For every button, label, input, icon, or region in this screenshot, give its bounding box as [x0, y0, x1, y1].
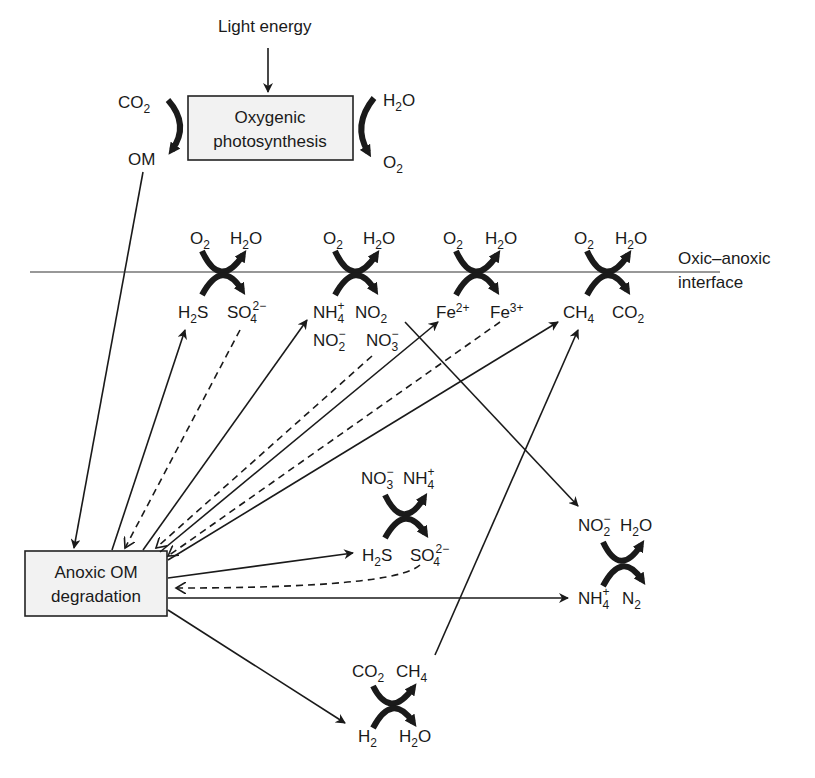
arrow-to-anoxic-h2s — [168, 553, 353, 578]
arrow-from-anoxic-so4 — [176, 565, 420, 588]
svg-text:NO−2: NO−2 — [578, 512, 611, 539]
anoxic-om-degradation-box — [25, 551, 167, 616]
arrow-to-h2 — [168, 610, 345, 723]
svg-text:Fe2+: Fe2+ — [436, 301, 470, 322]
svg-text:CH4: CH4 — [396, 662, 428, 685]
svg-text:SO2−4: SO2−4 — [410, 542, 449, 569]
oxic-reaction-sulfide: O2 H2O H2S SO2−4 — [178, 229, 266, 326]
light-energy-label: Light energy — [218, 17, 312, 36]
svg-text:NO2: NO2 — [355, 303, 388, 326]
biogeochemical-diagram: Light energy Oxygenic photosynthesis CO2… — [0, 0, 815, 778]
h2o-label: H2O — [383, 91, 415, 114]
arrow-ch4-upward — [435, 330, 578, 655]
om-to-anoxic-arrow — [74, 172, 143, 548]
svg-text:CO2: CO2 — [612, 303, 645, 326]
arrow-to-fe2 — [160, 322, 438, 552]
svg-text:NH+4: NH+4 — [578, 585, 610, 612]
svg-text:O2: O2 — [190, 229, 210, 252]
top-box-line1: Oxygenic — [235, 108, 306, 127]
svg-text:NH+4: NH+4 — [403, 465, 435, 492]
svg-text:NO−3: NO−3 — [361, 465, 394, 492]
svg-text:H2S: H2S — [362, 546, 392, 569]
arrow-to-h2s — [112, 330, 185, 550]
co2-om-arc — [168, 100, 180, 150]
co2-label: CO2 — [118, 93, 151, 116]
bottom-box-line1: Anoxic OM — [54, 563, 137, 582]
arrow-to-ch4 — [168, 322, 558, 560]
h2o-o2-arc — [361, 98, 374, 152]
svg-text:CO2: CO2 — [352, 662, 385, 685]
svg-text:H2O: H2O — [615, 229, 647, 252]
anoxic-reaction-sulfide-nitrate: NO−3 NH+4 H2S SO2−4 — [361, 465, 449, 569]
oxic-reaction-iron: O2 H2O Fe2+ Fe3+ — [436, 229, 524, 322]
anoxic-reaction-methanogenesis: CO2 CH4 H2 H2O — [352, 662, 431, 750]
interface-label-line1: Oxic–anoxic — [678, 249, 771, 268]
svg-text:O2: O2 — [574, 229, 594, 252]
svg-text:H2O: H2O — [230, 229, 262, 252]
anoxic-reaction-anammox: NO−2 H2O NH+4 N2 — [578, 512, 652, 612]
top-box-line2: photosynthesis — [213, 132, 326, 151]
interface-label-line2: interface — [678, 273, 743, 292]
om-label: OM — [128, 150, 155, 169]
svg-text:Fe3+: Fe3+ — [490, 301, 524, 322]
svg-text:H2O: H2O — [399, 727, 431, 750]
svg-text:H2O: H2O — [363, 229, 395, 252]
svg-text:NO−2: NO−2 — [313, 327, 346, 354]
svg-text:O2: O2 — [443, 229, 463, 252]
svg-text:O2: O2 — [323, 229, 343, 252]
svg-text:N2: N2 — [622, 589, 641, 612]
oxic-reaction-methane: O2 H2O CH4 CO2 — [563, 229, 647, 326]
svg-text:SO2−4: SO2−4 — [227, 299, 266, 326]
o2-label: O2 — [383, 153, 403, 176]
svg-text:H2O: H2O — [485, 229, 517, 252]
arrow-from-fe3 — [168, 322, 500, 556]
svg-text:H2: H2 — [358, 727, 377, 750]
bottom-box-line2: degradation — [51, 587, 141, 606]
svg-text:H2S: H2S — [178, 303, 208, 326]
arrow-from-no3 — [156, 356, 372, 548]
svg-text:NH+4: NH+4 — [313, 299, 345, 326]
oxic-reaction-nitrification: O2 H2O NH+4 NO2 NO−2 NO−3 — [313, 229, 399, 354]
svg-text:CH4: CH4 — [563, 303, 595, 326]
svg-text:H2O: H2O — [620, 516, 652, 539]
svg-text:NO−3: NO−3 — [366, 327, 399, 354]
